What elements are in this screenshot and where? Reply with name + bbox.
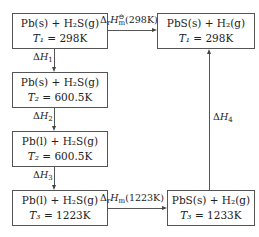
- edge-line-b-c: [54, 108, 55, 126]
- arrowhead-down-icon: [52, 67, 56, 72]
- box-temperature: T₃ = 1223K: [13, 208, 107, 223]
- edge-line-c-d: [54, 167, 55, 185]
- arrowhead-down-icon: [52, 126, 56, 131]
- h-symbol: H: [110, 192, 118, 203]
- sub-3: 3: [48, 174, 52, 182]
- temp-label: (1223K): [125, 192, 164, 203]
- temp-var: T₁: [179, 32, 190, 44]
- temp-value: = 1223K: [44, 209, 91, 221]
- box-reactants-298k: Pb(s) + H₂S(g) T₁ = 298K: [12, 13, 108, 49]
- h-symbol: H: [40, 110, 48, 121]
- edge-label-delta-h2: ΔH2: [33, 110, 53, 121]
- box-temperature: T₁ = 298K: [13, 31, 107, 46]
- temp-value: = 600.5K: [42, 150, 92, 162]
- edge-label-delta-h1: ΔH1: [33, 51, 53, 62]
- arrowhead-up-icon: [207, 49, 211, 54]
- box-reaction: Pb(s) + H₂S(g): [13, 16, 107, 31]
- temp-label: (298K): [125, 14, 158, 25]
- temp-value: = 298K: [193, 32, 233, 44]
- box-products-1233k: PbS(s) + H₂(g) T₃ = 1233K: [167, 190, 255, 226]
- box-reaction: Pb(s) + H₂S(g): [13, 75, 107, 90]
- temp-var: T₃: [180, 209, 191, 221]
- box-reactants-600k-liquid: Pb(l) + H₂S(g) T₂ = 600.5K: [12, 131, 108, 167]
- edge-line-d-f: [108, 208, 162, 209]
- box-temperature: T₂ = 600.5K: [13, 90, 107, 105]
- box-temperature: T₁ = 298K: [158, 31, 254, 46]
- sub-4: 4: [228, 116, 232, 124]
- delta-symbol: Δ: [213, 111, 220, 122]
- edge-line-a-b: [54, 49, 55, 67]
- arrowhead-down-icon: [52, 185, 56, 190]
- box-temperature: T₂ = 600.5K: [13, 149, 107, 164]
- temp-value: = 1233K: [195, 209, 242, 221]
- delta-symbol: Δ: [33, 51, 40, 62]
- delta-symbol: Δ: [33, 110, 40, 121]
- sub-1: 1: [48, 56, 52, 64]
- temp-var: T₃: [29, 209, 40, 221]
- edge-label-delta-r-h-1223k: ΔrHm(1223K): [100, 192, 164, 203]
- edge-label-delta-h3: ΔH3: [33, 169, 53, 180]
- box-reaction: Pb(l) + H₂S(g): [13, 193, 107, 208]
- edge-label-delta-h4: ΔH4: [213, 111, 233, 122]
- temp-value: = 298K: [47, 32, 87, 44]
- delta-symbol: Δ: [33, 169, 40, 180]
- box-reaction: PbS(s) + H₂(g): [158, 16, 254, 31]
- temp-var: T₂: [28, 91, 39, 103]
- edge-line-a-e: [108, 30, 152, 31]
- box-products-298k: PbS(s) + H₂(g) T₁ = 298K: [157, 13, 255, 49]
- box-reactants-600k-solid: Pb(s) + H₂S(g) T₂ = 600.5K: [12, 72, 108, 108]
- delta-symbol: Δ: [100, 192, 107, 203]
- box-temperature: T₃ = 1233K: [168, 208, 254, 223]
- h-symbol: H: [40, 169, 48, 180]
- delta-symbol: Δ: [100, 14, 107, 25]
- box-reactants-1223k: Pb(l) + H₂S(g) T₃ = 1223K: [12, 190, 108, 226]
- edge-label-delta-r-h-298k: ΔrH⊖m(298K): [100, 14, 158, 25]
- temp-var: T₁: [33, 32, 44, 44]
- sub-2: 2: [48, 115, 52, 123]
- temp-var: T₂: [28, 150, 39, 162]
- arrowhead-right-icon: [162, 206, 167, 210]
- temp-value: = 600.5K: [42, 91, 92, 103]
- h-symbol: H: [40, 51, 48, 62]
- h-symbol: H: [220, 111, 228, 122]
- box-reaction: PbS(s) + H₂(g): [168, 193, 254, 208]
- arrowhead-right-icon: [152, 28, 157, 32]
- edge-line-f-e: [209, 54, 210, 190]
- box-reaction: Pb(l) + H₂S(g): [13, 134, 107, 149]
